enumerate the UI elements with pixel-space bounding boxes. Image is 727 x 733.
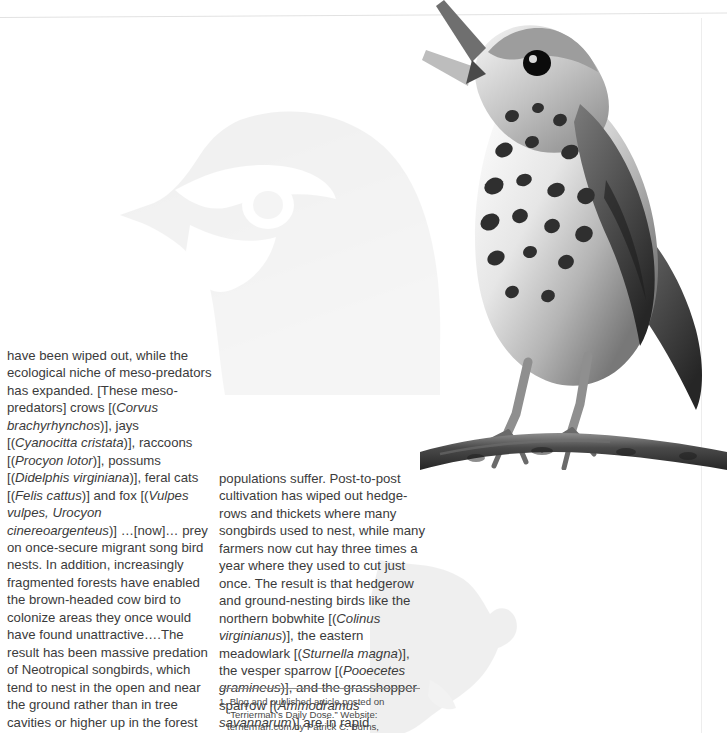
scan-artifact-top-rule <box>0 13 727 18</box>
scientific-name: Cyanocitta cristata <box>15 435 123 450</box>
rich-text-right-1: populations suffer. Post-to-post cultiva… <box>219 471 425 733</box>
left-paragraph-meso-predators: have been wiped out, while the ecologica… <box>7 347 212 733</box>
right-text-column: populations suffer. Post-to-post cultiva… <box>219 470 425 733</box>
scan-artifact-right-rule <box>701 18 702 733</box>
scientific-name: Sturnella magna <box>302 646 398 661</box>
footnote-separator-rule <box>219 688 420 689</box>
scientific-name: Felis cattus <box>15 488 82 503</box>
singing-thrush-photo <box>420 0 727 470</box>
right-paragraph-agriculture: populations suffer. Post-to-post cultiva… <box>219 470 425 733</box>
scanned-page: have been wiped out, while the ecologica… <box>0 0 727 733</box>
scientific-name: Procyon lotor <box>15 453 93 468</box>
footnote-text: 1. Blog and published article posted on … <box>219 696 437 733</box>
left-text-column: have been wiped out, while the ecologica… <box>7 347 212 733</box>
body-text-run: )] and fox [( <box>82 488 149 503</box>
body-text-run: have been wiped out, while the ecologica… <box>7 348 212 415</box>
body-text-run: populations suffer. Post-to-post cultiva… <box>219 471 425 626</box>
body-text-run: )] …[now]… prey on once-secure migrant s… <box>7 523 208 733</box>
scientific-name: Didelphis virginiana <box>15 470 129 485</box>
rich-text-left-1: have been wiped out, while the ecologica… <box>7 348 212 733</box>
